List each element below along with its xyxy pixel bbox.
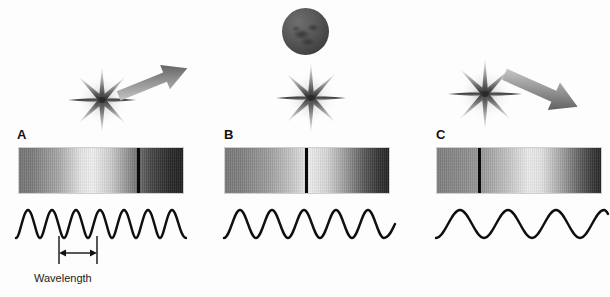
star-icon-b <box>275 62 347 134</box>
spectrum-strip-a <box>18 147 184 194</box>
spectrum-gradient-c <box>437 148 601 193</box>
motion-arrow-c <box>497 66 587 116</box>
absorption-line-a <box>137 148 140 193</box>
motion-arrow-a <box>112 62 194 102</box>
spectrum-strip-c <box>436 147 602 194</box>
wavelength-label: Wavelength <box>34 272 92 284</box>
absorption-line-b <box>305 148 308 193</box>
absorption-line-c <box>478 148 481 193</box>
wave-a <box>14 200 190 246</box>
panel-b: B <box>205 0 405 297</box>
wave-c <box>434 200 610 246</box>
panel-letter-b: B <box>224 128 233 141</box>
panel-letter-a: A <box>17 128 26 141</box>
observer-planet-icon-b <box>282 8 329 55</box>
spectrum-gradient-a <box>19 148 183 193</box>
wave-b <box>222 200 398 246</box>
panel-letter-c: C <box>436 128 445 141</box>
panel-c: C <box>405 0 608 297</box>
panel-a: A Wavelength <box>0 0 205 297</box>
wavelength-measure-a <box>56 236 102 264</box>
spectrum-strip-b <box>224 147 390 194</box>
